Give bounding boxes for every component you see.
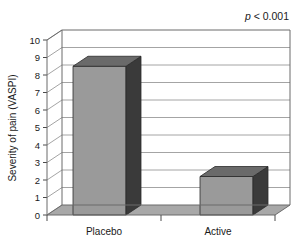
y-tick-label: 1 xyxy=(35,192,40,203)
y-axis-title: Severity of pain (VASPI) xyxy=(7,74,18,181)
y-tick-label: 7 xyxy=(35,87,40,98)
y-tick-label: 9 xyxy=(35,52,40,63)
bar-placebo-side xyxy=(126,56,141,215)
y-tick-marks xyxy=(43,40,47,215)
x-category-labels: Placebo Active xyxy=(86,226,232,237)
bar-active-front xyxy=(200,177,253,216)
y-tick-label: 4 xyxy=(35,140,40,151)
y-tick-label: 10 xyxy=(29,35,40,46)
y-tick-labels: 10 9 8 7 6 5 4 3 2 1 0 xyxy=(29,35,40,221)
p-value-rest: < 0.001 xyxy=(251,10,289,22)
y-tick-label: 2 xyxy=(35,175,40,186)
y-tick-label: 0 xyxy=(35,210,40,221)
category-label-active: Active xyxy=(204,226,232,237)
y-tick-label: 6 xyxy=(35,105,40,116)
y-tick-label: 3 xyxy=(35,157,40,168)
bar-placebo-front xyxy=(73,66,126,215)
category-label-placebo: Placebo xyxy=(86,226,123,237)
bar-active xyxy=(200,167,268,216)
bar-placebo xyxy=(73,56,141,215)
bar-chart-figure: 10 9 8 7 6 5 4 3 2 1 0 xyxy=(0,0,303,249)
p-value-annotation: p < 0.001 xyxy=(244,10,289,22)
x-tick-marks xyxy=(47,215,275,221)
y-tick-label: 5 xyxy=(35,122,40,133)
chart-canvas: 10 9 8 7 6 5 4 3 2 1 0 xyxy=(0,0,303,249)
y-tick-label: 8 xyxy=(35,70,40,81)
